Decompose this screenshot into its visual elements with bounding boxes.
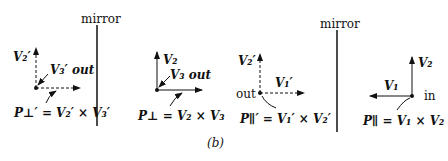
vector-label-v2-prime-2: V₂′ [238,55,256,67]
mirror-label-left: mirror [81,13,121,25]
vector-label-v3-prime-out: V₃′ out [50,64,94,76]
mirror-label-right: mirror [320,18,360,30]
physics-diagram: mirror mirror V₂′ V₃′ out P⊥′ = V₂′ × V₃… [0,0,448,161]
equation-p-par-prime: P∥′ = V₁′ × V₂′ [240,113,331,125]
vector-label-v1: V₁ [384,80,399,92]
equation-p-perp-prime: P⊥′ = V₂′ × V₃′ [14,107,110,119]
vector-label-v1-prime: V₁′ [275,77,293,89]
vector-label-v2-prime: V₂′ [13,51,31,63]
vector-label-v2: V₂ [163,54,178,66]
equation-p-par: P∥ = V₁ × V₂ [363,115,444,127]
direction-label-out: out [236,88,256,100]
vector-label-v3-out: V₃ out [170,69,211,81]
vector-label-v2-b: V₂ [418,57,433,69]
direction-label-in: in [424,90,436,102]
equation-p-perp: P⊥ = V₂ × V₃ [138,110,225,122]
figure-label: (b) [207,137,224,149]
